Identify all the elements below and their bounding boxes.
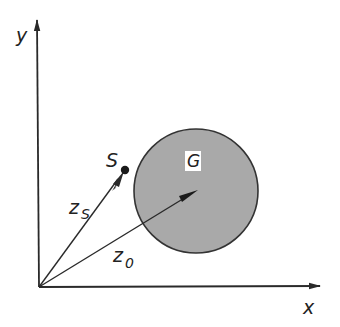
- point-s-label: S: [106, 149, 118, 171]
- svg-text:z: z: [112, 244, 124, 266]
- vector-zs-label: z S: [68, 196, 90, 222]
- x-axis: [39, 286, 320, 287]
- diagram-canvas: G x y S z S z 0: [0, 0, 340, 327]
- region-g-label: G: [187, 151, 200, 171]
- svg-text:S: S: [81, 206, 90, 222]
- diagram-svg: G x y S z S z 0: [0, 0, 340, 327]
- y-axis-label: y: [15, 24, 28, 46]
- vector-z0-label: z 0: [112, 244, 134, 271]
- y-axis: [37, 20, 39, 287]
- svg-text:z: z: [68, 196, 80, 218]
- svg-text:0: 0: [125, 255, 134, 271]
- point-s-dot: [121, 166, 129, 174]
- x-axis-label: x: [302, 296, 315, 318]
